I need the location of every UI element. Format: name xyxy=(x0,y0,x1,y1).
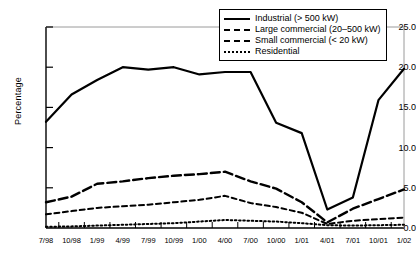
legend-swatch-long-dash-icon xyxy=(224,25,250,35)
top-edge-artifact xyxy=(232,0,402,5)
y-axis-tick-label: 0.0 xyxy=(382,223,416,233)
legend-label: Industrial (> 500 kW) xyxy=(255,13,338,24)
x-axis-tick-label: 10/99 xyxy=(164,236,183,245)
x-axis-tick-label: 1/00 xyxy=(192,236,207,245)
x-axis-tick-label: 4/00 xyxy=(218,236,233,245)
chart-legend: Industrial (> 500 kW) Large commercial (… xyxy=(219,9,387,61)
x-axis-tick-label: 1/02 xyxy=(397,236,412,245)
y-axis: Percentage xyxy=(0,0,40,256)
legend-swatch-short-dash-icon xyxy=(224,36,250,46)
series-line xyxy=(46,172,404,223)
x-axis-tick-label: 7/99 xyxy=(141,236,156,245)
legend-item-industrial: Industrial (> 500 kW) xyxy=(224,13,381,24)
legend-item-small-commercial: Small commercial (< 20 kW) xyxy=(224,35,381,46)
legend-swatch-solid-icon xyxy=(224,14,250,24)
y-axis-tick-label: 5.0 xyxy=(382,183,416,193)
x-axis-tick-label: 10/00 xyxy=(267,236,286,245)
y-axis-title: Percentage xyxy=(13,61,23,141)
x-axis-tick-label: 7/01 xyxy=(346,236,361,245)
y-axis-tick-label: 25.0 xyxy=(382,22,416,32)
legend-label: Large commercial (20–500 kW) xyxy=(255,24,381,35)
x-axis-tick-label: 10/98 xyxy=(62,236,81,245)
x-axis-tick-label: 1/01 xyxy=(294,236,309,245)
line-chart: Percentage Industrial (> 500 kW) Large c… xyxy=(0,0,416,256)
x-axis-tick-label: 7/00 xyxy=(243,236,258,245)
legend-item-large-commercial: Large commercial (20–500 kW) xyxy=(224,24,381,35)
y-axis-tick-label: 10.0 xyxy=(382,143,416,153)
x-axis-tick-label: 4/01 xyxy=(320,236,335,245)
x-axis-tick-label: 10/01 xyxy=(369,236,388,245)
x-axis-tick-label: 4/99 xyxy=(115,236,130,245)
y-axis-tick-label: 20.0 xyxy=(382,62,416,72)
x-axis-tick-label: 1/99 xyxy=(90,236,105,245)
x-axis-tick-label: 7/98 xyxy=(39,236,54,245)
legend-swatch-dotted-icon xyxy=(224,47,250,57)
legend-label: Small commercial (< 20 kW) xyxy=(255,35,368,46)
legend-item-residential: Residential xyxy=(224,46,381,57)
legend-label: Residential xyxy=(255,46,300,57)
y-axis-tick-label: 15.0 xyxy=(382,102,416,112)
series-line xyxy=(46,67,404,209)
